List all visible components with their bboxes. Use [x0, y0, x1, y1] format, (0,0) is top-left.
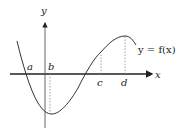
- curve-equation-label: y = f(x): [137, 44, 176, 55]
- point-b-label: b: [48, 61, 54, 72]
- function-curve: [17, 36, 136, 114]
- point-a-label: a: [27, 61, 33, 72]
- point-d-label: d: [121, 77, 127, 88]
- function-graph: y x a b c d y = f(x): [0, 0, 186, 130]
- y-axis-label: y: [40, 5, 47, 16]
- x-axis-label: x: [155, 69, 161, 80]
- point-c-label: c: [97, 77, 103, 88]
